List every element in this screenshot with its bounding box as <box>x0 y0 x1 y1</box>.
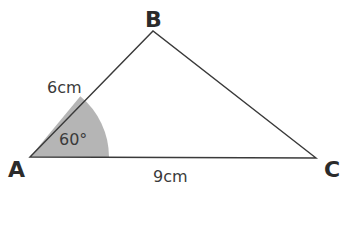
triangle-diagram: A B C 6cm 9cm 60° <box>0 0 346 238</box>
vertex-b-label: B <box>145 7 162 32</box>
vertex-a-label: A <box>8 157 25 182</box>
vertex-c-label: C <box>324 157 340 182</box>
side-ab-length: 6cm <box>47 78 82 97</box>
side-ac-length: 9cm <box>153 167 188 186</box>
angle-a-label: 60° <box>59 130 87 149</box>
